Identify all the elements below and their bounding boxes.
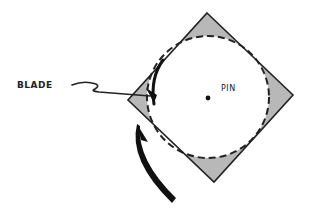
diagram-svg — [0, 0, 313, 221]
diagram-canvas: BLADE PIN — [0, 0, 313, 221]
blade-label: BLADE — [17, 80, 53, 90]
pin-dot-icon — [206, 96, 211, 101]
pin-label: PIN — [221, 84, 236, 93]
